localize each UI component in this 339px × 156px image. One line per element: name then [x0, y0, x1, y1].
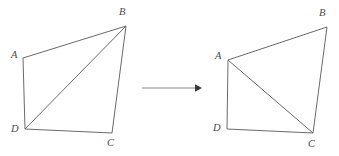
left-quadrilateral-group	[23, 26, 126, 133]
arrow-head-icon	[195, 84, 202, 92]
right-vertex-label-d: D	[213, 123, 221, 134]
right-vertex-label-c: C	[308, 139, 315, 150]
right-quadrilateral-group	[227, 27, 327, 133]
right-quadrilateral-outline	[227, 27, 327, 133]
left-vertex-label-d: D	[11, 124, 19, 135]
geometry-figure	[0, 0, 339, 156]
left-vertex-label-b: B	[119, 7, 125, 18]
diagram-canvas: A B C D A B C D	[0, 0, 339, 156]
arrow-group	[142, 84, 202, 92]
right-vertex-label-b: B	[319, 8, 325, 19]
left-vertex-label-c: C	[107, 138, 114, 149]
right-diagonal-ac	[228, 60, 313, 133]
left-vertex-label-a: A	[11, 50, 17, 61]
right-vertex-label-a: A	[215, 51, 221, 62]
